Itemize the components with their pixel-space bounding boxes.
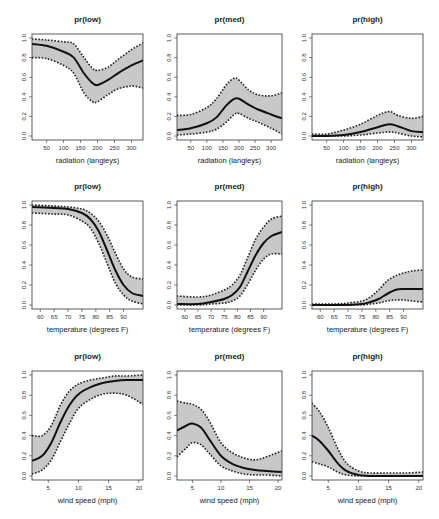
panel-2-2: 0.00.20.40.60.81.060657075808590pr(med)t… (166, 182, 282, 334)
y-tick-label: 0.2 (166, 451, 172, 460)
figure-grid: 0.00.20.40.60.81.050100150200250300pr(lo… (0, 0, 439, 519)
x-tick-label: 10 (75, 485, 82, 491)
y-tick-label: 0.6 (21, 72, 27, 81)
x-tick-label: 65 (51, 314, 58, 320)
panel-1-1: 0.00.20.40.60.81.050100150200250300pr(lo… (21, 15, 143, 165)
plot-area (32, 375, 143, 474)
x-axis-label: wind speed (mph) (337, 496, 398, 505)
panel-2-3: 0.00.20.40.60.81.060657075808590pr(high)… (301, 182, 423, 334)
panel-title: pr(low) (74, 15, 101, 24)
y-tick-label: 0.6 (21, 240, 27, 249)
x-tick-label: 90 (260, 314, 267, 320)
confidence-band (312, 270, 423, 305)
x-tick-label: 150 (356, 145, 367, 151)
y-tick-label: 0.8 (21, 390, 27, 399)
x-tick-label: 90 (120, 314, 127, 320)
x-tick-label: 85 (247, 314, 254, 320)
plot-area (312, 270, 423, 305)
y-tick-label: 0.4 (301, 431, 307, 440)
x-tick-label: 65 (195, 314, 202, 320)
panel-title: pr(med) (215, 182, 245, 191)
y-tick-label: 0.2 (21, 280, 27, 289)
x-tick-label: 50 (187, 145, 194, 151)
y-tick-label: 0.0 (21, 471, 27, 480)
x-tick-label: 85 (386, 314, 393, 320)
x-axis-label: radiation (langleys) (56, 156, 120, 165)
x-tick-label: 80 (234, 314, 241, 320)
y-tick-label: 0.8 (301, 220, 307, 229)
y-tick-label: 0.8 (166, 220, 172, 229)
y-tick-label: 0.0 (166, 471, 172, 480)
y-tick-label: 0.4 (166, 260, 172, 269)
x-tick-label: 250 (109, 145, 120, 151)
x-tick-label: 60 (37, 314, 44, 320)
x-tick-label: 15 (246, 485, 253, 491)
y-tick-label: 0.6 (166, 240, 172, 249)
panel-2-1: 0.00.20.40.60.81.060657075808590pr(low)t… (21, 182, 143, 334)
panel-title: pr(med) (215, 352, 245, 361)
y-tick-label: 1.0 (166, 370, 172, 379)
x-tick-label: 250 (250, 145, 261, 151)
plot-area (177, 401, 282, 476)
x-tick-label: 75 (221, 314, 228, 320)
x-tick-label: 20 (275, 485, 282, 491)
y-tick-label: 0.6 (166, 411, 172, 420)
y-tick-label: 0.0 (21, 131, 27, 140)
y-tick-label: 0.2 (301, 451, 307, 460)
y-tick-label: 1.0 (166, 200, 172, 209)
plot-area (312, 403, 423, 476)
x-tick-label: 300 (126, 145, 137, 151)
x-tick-label: 50 (43, 145, 50, 151)
x-tick-label: 70 (65, 314, 72, 320)
confidence-band (177, 216, 282, 305)
y-tick-label: 0.4 (21, 260, 27, 269)
x-tick-label: 20 (135, 485, 142, 491)
y-tick-label: 0.2 (301, 112, 307, 121)
x-tick-label: 85 (106, 314, 113, 320)
confidence-band (177, 401, 282, 476)
y-tick-label: 0.0 (21, 300, 27, 309)
y-tick-label: 0.8 (301, 53, 307, 62)
x-axis-label: wind speed (mph) (57, 496, 118, 505)
x-axis-label: radiation (langleys) (336, 156, 400, 165)
x-tick-label: 5 (191, 485, 195, 491)
y-tick-label: 1.0 (21, 200, 27, 209)
x-axis-label: radiation (langleys) (198, 156, 262, 165)
y-tick-label: 0.8 (301, 390, 307, 399)
y-tick-label: 1.0 (301, 33, 307, 42)
panel-title: pr(high) (352, 15, 383, 24)
x-tick-label: 100 (59, 145, 70, 151)
y-tick-label: 0.2 (166, 112, 172, 121)
x-tick-label: 15 (385, 485, 392, 491)
x-tick-label: 5 (47, 485, 51, 491)
y-tick-label: 0.2 (21, 451, 27, 460)
y-tick-label: 1.0 (21, 370, 27, 379)
x-tick-label: 200 (373, 145, 384, 151)
y-tick-label: 0.0 (166, 300, 172, 309)
y-tick-label: 0.2 (166, 280, 172, 289)
x-tick-label: 100 (339, 145, 350, 151)
y-tick-label: 0.4 (301, 92, 307, 101)
y-tick-label: 0.2 (21, 112, 27, 121)
x-tick-label: 75 (359, 314, 366, 320)
y-tick-label: 0.4 (166, 92, 172, 101)
y-tick-label: 0.8 (21, 220, 27, 229)
x-tick-label: 75 (79, 314, 86, 320)
x-tick-label: 80 (372, 314, 379, 320)
x-tick-label: 70 (345, 314, 352, 320)
panel-3-2: 0.00.20.40.60.81.05101520pr(med)wind spe… (166, 352, 282, 505)
x-tick-label: 5 (327, 485, 331, 491)
y-tick-label: 0.6 (301, 240, 307, 249)
x-tick-label: 10 (355, 485, 362, 491)
x-tick-label: 250 (389, 145, 400, 151)
panel-title: pr(high) (352, 352, 383, 361)
confidence-band (312, 403, 423, 476)
x-tick-label: 300 (406, 145, 417, 151)
y-tick-label: 1.0 (166, 33, 172, 42)
y-tick-label: 0.2 (301, 280, 307, 289)
y-tick-label: 1.0 (21, 33, 27, 42)
x-axis-label: temperature (degrees F) (47, 325, 129, 334)
y-tick-label: 0.4 (166, 431, 172, 440)
plot-area (312, 112, 423, 137)
plot-area (32, 39, 143, 103)
